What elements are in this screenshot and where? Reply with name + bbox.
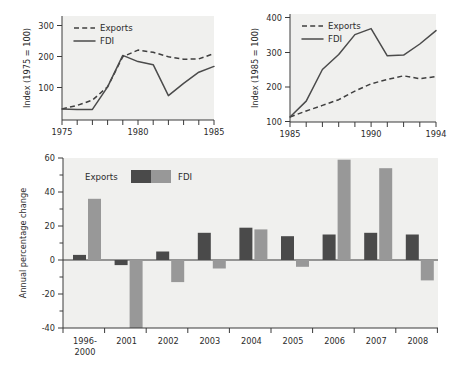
- x-tick-label-line2: 2000: [75, 347, 96, 357]
- y-tick-label: 20: [45, 221, 55, 231]
- x-tick-label: 2003: [199, 336, 220, 346]
- y-axis-label: Annual percentage change: [18, 188, 28, 298]
- y-tick-label: 40: [45, 187, 55, 197]
- x-tick-label: 2006: [324, 336, 345, 346]
- y-axis-label: Index (1985 = 100): [250, 28, 260, 108]
- bar-fdi: [88, 199, 101, 260]
- x-tick-label: 1994: [426, 129, 447, 139]
- bar-fdi: [171, 260, 184, 282]
- y-tick-label: 200: [38, 52, 54, 62]
- y-tick-label: 300: [266, 48, 282, 58]
- x-tick-label: 1975: [52, 127, 73, 137]
- plot-area-background: [62, 16, 214, 120]
- x-tick-label: 1985: [280, 129, 301, 139]
- bar-exports: [406, 235, 419, 261]
- x-tick-label: 2008: [407, 336, 428, 346]
- legend-label-exports: Exports: [85, 172, 118, 182]
- legend-swatch-fdi: [151, 170, 171, 183]
- y-tick-label: 100: [38, 83, 54, 93]
- bar-fdi: [130, 260, 143, 328]
- bar-fdi: [379, 168, 392, 260]
- y-ticks: 60 40 20 0 -20 -40: [42, 153, 63, 333]
- bar-exports: [73, 255, 86, 260]
- y-axis-label: Index (1975 = 100): [22, 28, 32, 108]
- chart-top-left: 300 200 100 Index (1975 = 100) 1975 1980…: [0, 0, 232, 148]
- bar-fdi: [338, 160, 351, 260]
- x-ticks: [63, 328, 437, 333]
- x-tick-label: 2004: [241, 336, 262, 346]
- x-tick-label: 1990: [361, 129, 382, 139]
- y-tick-label: 60: [45, 153, 55, 163]
- x-tick-label: 2002: [158, 336, 179, 346]
- y-ticks: 400 300 200 100: [266, 13, 290, 127]
- x-tick-label: 2007: [366, 336, 387, 346]
- y-tick-label: -20: [42, 289, 55, 299]
- bar-exports: [281, 236, 294, 260]
- x-tick-label: 1996-: [73, 336, 97, 346]
- bar-fdi: [213, 260, 226, 269]
- x-tick-labels: 1996- 2000 2001 2002 2003 2004 2005 2006…: [73, 336, 428, 357]
- y-tick-label: 100: [266, 117, 282, 127]
- chart-top-right: 400 300 200 100 Index (1985 = 100) 1985 …: [232, 0, 464, 148]
- legend-label-fdi: FDI: [328, 34, 342, 44]
- plot-area-background: [290, 14, 436, 122]
- bar-fdi: [421, 260, 434, 280]
- legend-label-exports: Exports: [100, 23, 133, 33]
- chart-top-left-canvas: 300 200 100 Index (1975 = 100) 1975 1980…: [0, 0, 232, 148]
- y-tick-label: 400: [266, 13, 282, 23]
- bar-exports: [323, 235, 336, 261]
- y-tick-label: -40: [42, 323, 55, 333]
- x-ticks: 1975 1980 1985: [52, 120, 225, 137]
- legend-swatch-exports: [131, 170, 151, 183]
- bar-exports: [239, 228, 252, 260]
- legend-label-fdi: FDI: [100, 36, 114, 46]
- bar-fdi: [296, 260, 309, 267]
- chart-bottom-canvas: 60 40 20 0 -20 -40 Annual percentage cha…: [0, 148, 464, 375]
- y-ticks: 300 200 100: [38, 21, 62, 93]
- x-ticks: 1985 1990 1994: [280, 122, 447, 139]
- legend-label-fdi: FDI: [178, 172, 192, 182]
- x-tick-label: 2001: [116, 336, 137, 346]
- bar-exports: [364, 233, 377, 260]
- bar-fdi: [254, 229, 267, 260]
- y-tick-label: 300: [38, 21, 54, 31]
- chart-top-right-canvas: 400 300 200 100 Index (1985 = 100) 1985 …: [232, 0, 464, 148]
- y-tick-label: 200: [266, 82, 282, 92]
- chart-bottom-bars: 60 40 20 0 -20 -40 Annual percentage cha…: [0, 148, 464, 375]
- bar-exports: [198, 233, 211, 260]
- bar-exports: [156, 252, 169, 261]
- y-tick-label: 0: [50, 255, 55, 265]
- bar-exports: [115, 260, 128, 265]
- legend-label-exports: Exports: [328, 21, 361, 31]
- x-tick-label: 1985: [204, 127, 225, 137]
- x-tick-label: 1980: [128, 127, 149, 137]
- x-tick-label: 2005: [283, 336, 304, 346]
